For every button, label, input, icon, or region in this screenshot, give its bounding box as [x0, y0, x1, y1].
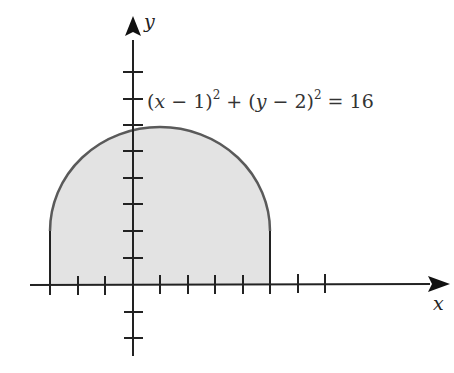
x-axis-arrow-icon — [428, 276, 450, 292]
diagram-canvas: x y (x − 1)2 + (y − 2)2 = 16 — [0, 0, 454, 373]
x-axis-label: x — [433, 292, 444, 314]
shaded-region — [50, 127, 270, 284]
y-axis-label: y — [143, 10, 155, 32]
equation-label: (x − 1)2 + (y − 2)2 = 16 — [147, 88, 374, 112]
y-axis-arrow-icon — [125, 16, 141, 36]
